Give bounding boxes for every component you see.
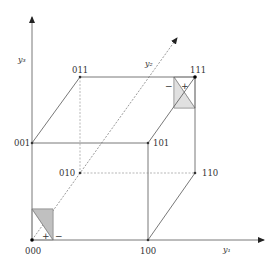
cube-edges <box>32 77 195 240</box>
label-101: 101 <box>153 138 169 148</box>
vertices <box>30 75 197 242</box>
label-100: 100 <box>140 246 156 256</box>
label-111: 111 <box>190 65 206 75</box>
label-010: 010 <box>59 168 75 178</box>
label-001: 001 <box>14 138 30 148</box>
minus-sign-111: − <box>165 81 173 91</box>
label-000: 000 <box>25 246 41 256</box>
axis-label-y3: y₃ <box>17 55 26 64</box>
plus-sign-111: + <box>181 81 189 91</box>
vertex-011 <box>79 76 82 79</box>
minus-sign-000: − <box>55 231 63 241</box>
label-110: 110 <box>202 168 218 178</box>
axis-label-y1: y₁ <box>222 245 231 254</box>
vertex-111 <box>193 75 197 79</box>
label-011: 011 <box>72 65 88 75</box>
vertex-101 <box>147 142 150 145</box>
vertex-010 <box>79 172 82 175</box>
axis-label-y2: y₂ <box>144 59 153 68</box>
plus-sign-000: + <box>42 231 50 241</box>
vertex-001 <box>31 142 34 145</box>
vertex-000 <box>30 238 34 242</box>
boolean-cube-diagram: 000 100 010 110 001 101 011 111 y₃ y₂ y₁… <box>0 0 279 267</box>
vertex-110 <box>194 172 197 175</box>
vertex-100 <box>147 239 150 242</box>
